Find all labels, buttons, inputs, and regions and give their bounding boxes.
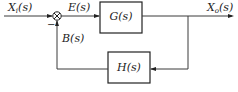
error-label: E(s): [67, 1, 90, 14]
output-arrow-icon: [228, 14, 234, 18]
feedback-return-arrow-icon: [55, 20, 59, 26]
feedback-arrow-icon: [150, 67, 156, 71]
feedback-tap-line: [151, 16, 188, 69]
output-label: Xo(s): [206, 1, 233, 15]
minus-sign: −: [47, 19, 55, 30]
block-diagram: Xi(s) − E(s) G(s) Xo(s) H(s) B(s): [0, 0, 238, 92]
input-label: Xi(s): [7, 1, 32, 15]
error-arrow-icon: [94, 14, 100, 18]
input-arrow-icon: [47, 14, 53, 18]
feedback-block-label: H(s): [116, 61, 141, 74]
forward-block-label: G(s): [109, 10, 132, 23]
feedback-signal-label: B(s): [61, 32, 84, 45]
